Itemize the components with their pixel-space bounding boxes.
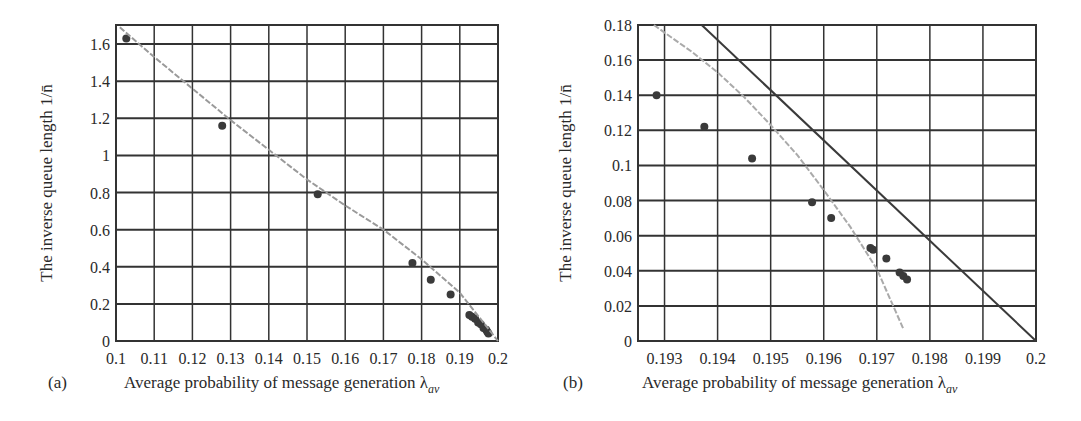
data-point xyxy=(408,259,416,267)
y-tick-label: 1.6 xyxy=(90,36,110,53)
y-tick-label: 1.2 xyxy=(90,110,110,127)
x-tick-label: 0.1 xyxy=(106,350,126,367)
x-tick-label: 0.196 xyxy=(806,350,842,367)
x-tick-label: 0.2 xyxy=(488,350,508,367)
y-tick-label: 1.4 xyxy=(90,73,110,90)
y-tick-label: 0.08 xyxy=(604,193,632,210)
data-point xyxy=(218,122,226,130)
y-tick-label: 0.1 xyxy=(612,157,632,174)
y-tick-label: 1 xyxy=(102,147,110,164)
x-tick-label: 0.19 xyxy=(446,350,474,367)
y-tick-label: 0.16 xyxy=(604,52,632,69)
panel-label: (b) xyxy=(563,373,583,392)
x-tick-label: 0.193 xyxy=(647,350,683,367)
data-point xyxy=(653,91,661,99)
data-point xyxy=(903,276,911,284)
y-axis-label: The inverse queue length 1/n̄ xyxy=(556,84,575,282)
data-point xyxy=(314,190,322,198)
x-tick-label: 0.2 xyxy=(1026,350,1046,367)
y-tick-label: 0.18 xyxy=(604,17,632,34)
x-tick-label: 0.194 xyxy=(700,350,736,367)
analytical-curve xyxy=(654,25,903,329)
x-tick-label: 0.199 xyxy=(965,350,1001,367)
data-point xyxy=(827,214,835,222)
y-tick-label: 0.4 xyxy=(90,259,110,276)
data-point xyxy=(882,254,890,262)
x-tick-label: 0.197 xyxy=(859,350,895,367)
data-point xyxy=(700,123,708,131)
y-tick-label: 0.04 xyxy=(604,263,632,280)
y-tick-label: 0 xyxy=(624,333,632,350)
x-tick-label: 0.18 xyxy=(408,350,436,367)
data-point xyxy=(447,291,455,299)
y-axis-label: The inverse queue length 1/n̄ xyxy=(37,84,56,282)
y-tick-label: 0.8 xyxy=(90,185,110,202)
x-tick-label: 0.198 xyxy=(912,350,948,367)
panel-label: (a) xyxy=(48,373,67,392)
x-tick-label: 0.16 xyxy=(331,350,359,367)
data-point xyxy=(869,246,877,254)
y-tick-label: 0.12 xyxy=(604,122,632,139)
plot-frame xyxy=(638,25,1036,341)
x-tick-label: 0.17 xyxy=(369,350,397,367)
y-tick-label: 0 xyxy=(102,333,110,350)
chart-panel-b: 00.020.040.060.080.10.120.140.160.180.19… xyxy=(556,17,1046,396)
chart-panel-a: 00.20.40.60.811.21.41.60.10.110.120.130.… xyxy=(37,25,508,396)
data-point xyxy=(748,154,756,162)
x-axis-label: Average probability of message generatio… xyxy=(642,373,958,396)
x-tick-label: 0.14 xyxy=(255,350,283,367)
x-tick-label: 0.13 xyxy=(217,350,245,367)
x-tick-label: 0.195 xyxy=(753,350,789,367)
figure: 00.20.40.60.811.21.41.60.10.110.120.130.… xyxy=(0,0,1081,421)
y-tick-label: 0.2 xyxy=(90,296,110,313)
data-point xyxy=(808,198,816,206)
analytical-curve xyxy=(120,27,498,341)
data-point xyxy=(427,276,435,284)
y-tick-label: 0.06 xyxy=(604,228,632,245)
x-tick-label: 0.12 xyxy=(178,350,206,367)
y-tick-label: 0.14 xyxy=(604,87,632,104)
x-axis-label: Average probability of message generatio… xyxy=(124,373,440,396)
bound-line xyxy=(702,25,1036,341)
y-tick-label: 0.6 xyxy=(90,222,110,239)
x-tick-label: 0.11 xyxy=(140,350,167,367)
y-tick-label: 0.02 xyxy=(604,298,632,315)
x-tick-label: 0.15 xyxy=(293,350,321,367)
